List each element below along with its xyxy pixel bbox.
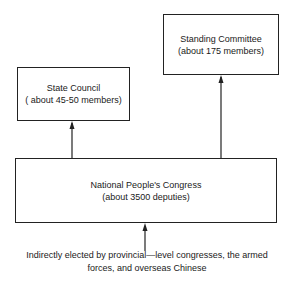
state-council-box: State Council ( about 45-50 members) <box>17 67 130 121</box>
npc-box: National People's Congress (about 3500 d… <box>15 158 277 223</box>
state-council-subtitle: ( about 45-50 members) <box>25 94 122 106</box>
standing-committee-title: Standing Committee <box>180 33 262 45</box>
electorate-caption-line-1: Indirectly elected by provincial—level c… <box>0 249 294 262</box>
electorate-caption: Indirectly elected by provincial—level c… <box>0 249 294 275</box>
arrowhead-icon <box>143 223 148 231</box>
standing-committee-box: Standing Committee (about 175 members) <box>163 14 279 75</box>
state-council-title: State Council <box>47 82 101 94</box>
npc-title: National People's Congress <box>91 179 202 191</box>
electorate-caption-line-2: forces, and overseas Chinese <box>0 262 294 275</box>
npc-subtitle: (about 3500 deputies) <box>102 191 190 203</box>
arrowhead-icon <box>70 121 75 129</box>
standing-committee-subtitle: (about 175 members) <box>178 45 264 57</box>
arrowhead-icon <box>219 75 224 83</box>
